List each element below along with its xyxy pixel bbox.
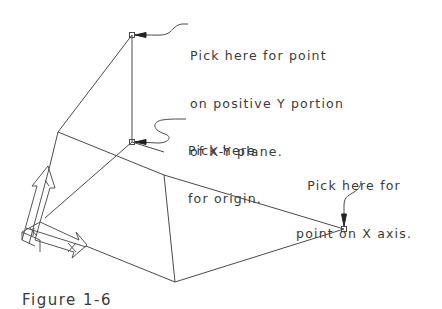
callout-positive-y-line-2: on positive Y portion bbox=[190, 96, 344, 112]
callout-x-axis: Pick here for point on X axis. bbox=[296, 146, 412, 274]
callout-origin-line-2: for origin. bbox=[188, 191, 262, 207]
callout-origin: Pick here for origin. bbox=[188, 111, 262, 239]
leader-origin bbox=[135, 119, 186, 145]
leader-positive-y bbox=[135, 24, 188, 38]
figure-caption: Figure 1-6 bbox=[22, 291, 112, 309]
callout-x-axis-line-2: point on X axis. bbox=[296, 226, 412, 242]
callout-positive-y-line-1: Pick here for point bbox=[190, 48, 344, 64]
ucs-icon bbox=[22, 165, 87, 258]
callout-origin-line-1: Pick here bbox=[188, 143, 262, 159]
callout-x-axis-line-1: Pick here for bbox=[296, 178, 412, 194]
